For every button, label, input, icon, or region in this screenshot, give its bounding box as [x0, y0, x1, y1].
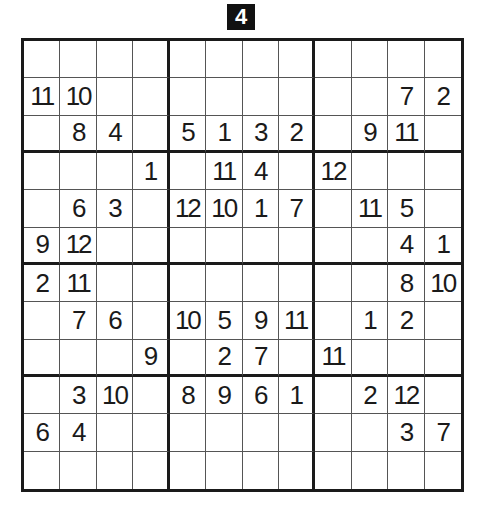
empty-cell[interactable] — [352, 265, 388, 302]
empty-cell[interactable] — [352, 340, 388, 377]
empty-cell[interactable] — [315, 452, 351, 489]
empty-cell[interactable] — [97, 78, 133, 115]
empty-cell[interactable] — [60, 452, 96, 489]
empty-cell[interactable] — [24, 190, 60, 227]
given-cell[interactable]: 1 — [133, 153, 169, 190]
given-cell[interactable]: 6 — [97, 302, 133, 339]
empty-cell[interactable] — [170, 265, 206, 302]
given-cell[interactable]: 12 — [315, 153, 351, 190]
empty-cell[interactable] — [24, 377, 60, 414]
empty-cell[interactable] — [206, 228, 242, 265]
given-cell[interactable]: 12 — [170, 190, 206, 227]
given-cell[interactable]: 6 — [60, 190, 96, 227]
empty-cell[interactable] — [243, 228, 279, 265]
given-cell[interactable]: 3 — [388, 414, 424, 451]
given-cell[interactable]: 11 — [24, 78, 60, 115]
empty-cell[interactable] — [388, 153, 424, 190]
given-cell[interactable]: 8 — [170, 377, 206, 414]
given-cell[interactable]: 9 — [206, 377, 242, 414]
empty-cell[interactable] — [315, 302, 351, 339]
empty-cell[interactable] — [170, 414, 206, 451]
empty-cell[interactable] — [133, 116, 169, 153]
given-cell[interactable]: 9 — [243, 302, 279, 339]
empty-cell[interactable] — [133, 302, 169, 339]
given-cell[interactable]: 11 — [60, 265, 96, 302]
given-cell[interactable]: 9 — [133, 340, 169, 377]
given-cell[interactable]: 7 — [60, 302, 96, 339]
empty-cell[interactable] — [352, 41, 388, 78]
empty-cell[interactable] — [24, 340, 60, 377]
empty-cell[interactable] — [170, 78, 206, 115]
empty-cell[interactable] — [24, 116, 60, 153]
empty-cell[interactable] — [279, 41, 315, 78]
empty-cell[interactable] — [425, 116, 461, 153]
empty-cell[interactable] — [24, 153, 60, 190]
given-cell[interactable]: 1 — [425, 228, 461, 265]
empty-cell[interactable] — [133, 228, 169, 265]
empty-cell[interactable] — [60, 153, 96, 190]
empty-cell[interactable] — [425, 190, 461, 227]
empty-cell[interactable] — [170, 228, 206, 265]
empty-cell[interactable] — [133, 265, 169, 302]
empty-cell[interactable] — [206, 41, 242, 78]
empty-cell[interactable] — [425, 377, 461, 414]
empty-cell[interactable] — [279, 265, 315, 302]
empty-cell[interactable] — [425, 340, 461, 377]
given-cell[interactable]: 11 — [315, 340, 351, 377]
empty-cell[interactable] — [24, 452, 60, 489]
given-cell[interactable]: 2 — [425, 78, 461, 115]
empty-cell[interactable] — [97, 452, 133, 489]
empty-cell[interactable] — [315, 78, 351, 115]
given-cell[interactable]: 5 — [170, 116, 206, 153]
empty-cell[interactable] — [243, 452, 279, 489]
empty-cell[interactable] — [60, 340, 96, 377]
empty-cell[interactable] — [24, 41, 60, 78]
empty-cell[interactable] — [133, 78, 169, 115]
given-cell[interactable]: 11 — [388, 116, 424, 153]
given-cell[interactable]: 4 — [388, 228, 424, 265]
empty-cell[interactable] — [388, 41, 424, 78]
empty-cell[interactable] — [279, 340, 315, 377]
given-cell[interactable]: 2 — [24, 265, 60, 302]
given-cell[interactable]: 11 — [279, 302, 315, 339]
given-cell[interactable]: 9 — [352, 116, 388, 153]
empty-cell[interactable] — [133, 452, 169, 489]
given-cell[interactable]: 3 — [243, 116, 279, 153]
empty-cell[interactable] — [315, 414, 351, 451]
empty-cell[interactable] — [352, 153, 388, 190]
empty-cell[interactable] — [243, 414, 279, 451]
given-cell[interactable]: 10 — [97, 377, 133, 414]
given-cell[interactable]: 7 — [425, 414, 461, 451]
given-cell[interactable]: 1 — [279, 377, 315, 414]
given-cell[interactable]: 3 — [60, 377, 96, 414]
empty-cell[interactable] — [352, 78, 388, 115]
empty-cell[interactable] — [315, 265, 351, 302]
given-cell[interactable]: 1 — [352, 302, 388, 339]
given-cell[interactable]: 4 — [60, 414, 96, 451]
empty-cell[interactable] — [206, 452, 242, 489]
empty-cell[interactable] — [315, 190, 351, 227]
empty-cell[interactable] — [133, 377, 169, 414]
empty-cell[interactable] — [170, 153, 206, 190]
given-cell[interactable]: 8 — [388, 265, 424, 302]
empty-cell[interactable] — [97, 228, 133, 265]
empty-cell[interactable] — [279, 452, 315, 489]
empty-cell[interactable] — [170, 452, 206, 489]
empty-cell[interactable] — [315, 116, 351, 153]
empty-cell[interactable] — [24, 302, 60, 339]
empty-cell[interactable] — [425, 452, 461, 489]
empty-cell[interactable] — [133, 190, 169, 227]
given-cell[interactable]: 7 — [388, 78, 424, 115]
empty-cell[interactable] — [206, 414, 242, 451]
empty-cell[interactable] — [352, 414, 388, 451]
empty-cell[interactable] — [133, 414, 169, 451]
given-cell[interactable]: 2 — [206, 340, 242, 377]
given-cell[interactable]: 12 — [388, 377, 424, 414]
empty-cell[interactable] — [97, 265, 133, 302]
given-cell[interactable]: 4 — [243, 153, 279, 190]
empty-cell[interactable] — [315, 377, 351, 414]
given-cell[interactable]: 10 — [60, 78, 96, 115]
given-cell[interactable]: 3 — [97, 190, 133, 227]
empty-cell[interactable] — [133, 41, 169, 78]
empty-cell[interactable] — [388, 452, 424, 489]
